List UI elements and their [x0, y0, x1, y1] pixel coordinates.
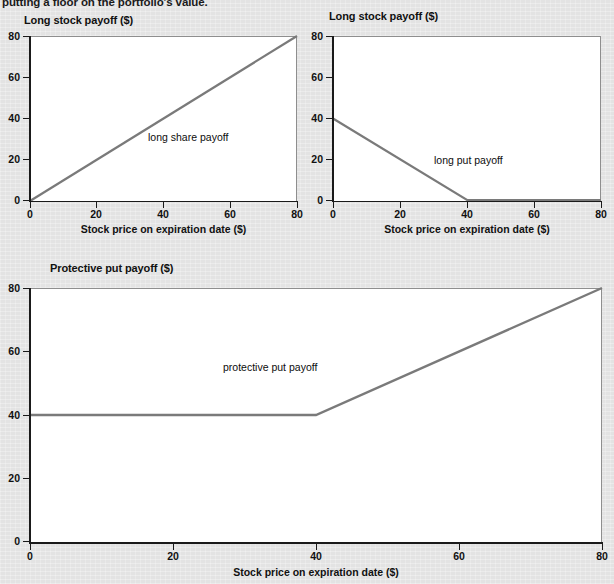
- plot-area: long put payoff: [333, 36, 601, 201]
- x-tick: [534, 201, 535, 208]
- y-axis-line: [29, 36, 31, 202]
- x-tick-label: 80: [590, 550, 614, 562]
- series-annotation: long put payoff: [434, 154, 503, 166]
- x-tick: [459, 542, 460, 550]
- y-tick: [326, 77, 333, 78]
- x-tick-label: 20: [161, 550, 185, 562]
- x-tick-label: 80: [589, 208, 613, 220]
- y-tick: [23, 36, 30, 37]
- y-tick: [326, 118, 333, 119]
- y-tick-label: 60: [0, 345, 20, 357]
- y-tick-label: 80: [0, 30, 20, 42]
- y-tick-label: 20: [0, 472, 20, 484]
- series-canvas: [30, 36, 297, 201]
- x-axis-label: Stock price on expiration date ($): [333, 223, 601, 235]
- x-tick-label: 60: [218, 208, 242, 220]
- y-tick: [23, 351, 30, 352]
- y-tick: [326, 200, 333, 201]
- x-tick: [467, 201, 468, 208]
- y-tick: [23, 541, 30, 542]
- x-tick-label: 60: [522, 208, 546, 220]
- x-tick: [163, 201, 164, 208]
- y-tick-label: 40: [0, 112, 20, 124]
- x-tick: [601, 201, 602, 208]
- series-line-long-share-payoff: [30, 36, 297, 201]
- y-tick-label: 0: [0, 535, 20, 547]
- x-tick: [96, 201, 97, 208]
- x-tick-label: 40: [455, 208, 479, 220]
- x-tick-label: 20: [84, 208, 108, 220]
- x-tick-label: 0: [321, 208, 345, 220]
- x-tick: [602, 542, 603, 550]
- x-axis-label: Stock price on expiration date ($): [30, 566, 602, 578]
- caption-fragment: putting a floor on the portfolio's value…: [2, 0, 208, 8]
- x-axis-label: Stock price on expiration date ($): [30, 223, 297, 235]
- y-tick: [23, 200, 30, 201]
- series-line-protective-put-payoff: [30, 288, 602, 415]
- chart-title: Protective put payoff ($): [50, 262, 173, 274]
- x-tick-label: 40: [304, 550, 328, 562]
- y-axis-line: [332, 36, 334, 202]
- y-tick-label: 60: [299, 71, 323, 83]
- y-tick-label: 60: [0, 71, 20, 83]
- x-tick-label: 20: [388, 208, 412, 220]
- chart-title: Long stock payoff ($): [24, 14, 133, 26]
- y-tick-label: 40: [0, 409, 20, 421]
- series-annotation: long share payoff: [148, 131, 228, 143]
- plot-area: protective put payoff: [30, 288, 602, 542]
- y-tick: [23, 118, 30, 119]
- y-tick: [23, 77, 30, 78]
- y-tick-label: 0: [299, 194, 323, 206]
- x-tick-label: 0: [18, 550, 42, 562]
- y-tick-label: 20: [0, 153, 20, 165]
- series-annotation: protective put payoff: [223, 361, 317, 373]
- y-tick-label: 40: [299, 112, 323, 124]
- x-tick: [30, 201, 31, 208]
- x-tick-label: 60: [447, 550, 471, 562]
- chart-title: Long stock payoff ($): [329, 10, 438, 22]
- x-tick-label: 80: [285, 208, 309, 220]
- x-tick: [297, 201, 298, 208]
- y-tick-label: 0: [0, 194, 20, 206]
- y-tick-label: 20: [299, 153, 323, 165]
- series-canvas: [30, 288, 602, 542]
- y-tick: [23, 288, 30, 289]
- y-tick: [23, 159, 30, 160]
- x-tick: [333, 201, 334, 208]
- y-tick-label: 80: [299, 30, 323, 42]
- series-canvas: [333, 36, 601, 201]
- y-tick: [326, 159, 333, 160]
- x-tick: [230, 201, 231, 208]
- y-tick: [326, 36, 333, 37]
- x-tick: [400, 201, 401, 208]
- x-tick: [30, 542, 31, 550]
- y-tick: [23, 478, 30, 479]
- y-tick: [23, 415, 30, 416]
- x-tick-label: 0: [18, 208, 42, 220]
- x-tick-label: 40: [151, 208, 175, 220]
- y-tick-label: 80: [0, 282, 20, 294]
- figure-page: putting a floor on the portfolio's value…: [0, 0, 614, 584]
- plot-area: long share payoff: [30, 36, 297, 201]
- x-tick: [173, 542, 174, 550]
- x-tick: [316, 542, 317, 550]
